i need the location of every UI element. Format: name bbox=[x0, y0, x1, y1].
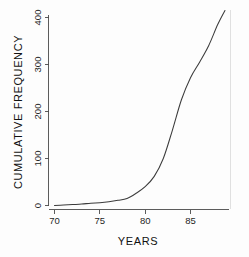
cumulative-frequency-line-chart: 0 100 200 300 400 CUMULATIVE FREQUENCY 7… bbox=[0, 0, 249, 257]
y-tick-label-0: 0 bbox=[32, 203, 43, 208]
y-tick-label-300: 300 bbox=[32, 57, 43, 73]
x-axis-tick-marks bbox=[55, 210, 191, 214]
x-tick-label-75: 75 bbox=[95, 215, 106, 226]
y-axis-tick-marks bbox=[45, 18, 49, 206]
y-axis-title: CUMULATIVE FREQUENCY bbox=[12, 35, 24, 189]
x-tick-label-80: 80 bbox=[140, 215, 151, 226]
y-tick-label-400: 400 bbox=[32, 10, 43, 26]
x-tick-label-70: 70 bbox=[49, 215, 60, 226]
chart-figure: 0 100 200 300 400 CUMULATIVE FREQUENCY 7… bbox=[0, 0, 249, 257]
y-tick-label-100: 100 bbox=[32, 151, 43, 167]
cumulative-frequency-curve bbox=[55, 10, 225, 205]
y-tick-label-200: 200 bbox=[32, 104, 43, 120]
y-axis-tick-labels: 0 100 200 300 400 bbox=[32, 10, 43, 209]
x-axis-title: YEARS bbox=[118, 235, 158, 247]
x-tick-label-85: 85 bbox=[185, 215, 196, 226]
x-axis-tick-labels: 70 75 80 85 bbox=[49, 215, 196, 226]
